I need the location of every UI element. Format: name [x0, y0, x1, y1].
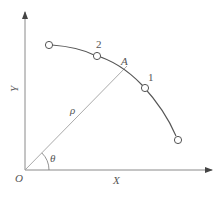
- marker-end: [174, 136, 181, 143]
- x-axis-label: X: [112, 174, 121, 186]
- angle-arc: [42, 153, 49, 170]
- point-a-label: A: [120, 55, 128, 67]
- marker-2-label: 2: [96, 38, 102, 50]
- marker-1: [141, 84, 148, 91]
- marker-start: [45, 41, 52, 48]
- rho-label: ρ: [69, 104, 75, 116]
- trajectory-curve: [52, 45, 176, 136]
- theta-label: θ: [50, 152, 56, 164]
- radius-ray: [25, 66, 127, 170]
- y-axis-label: Y: [8, 84, 20, 92]
- marker-1-label: 1: [148, 71, 154, 83]
- origin-label: O: [15, 172, 23, 184]
- marker-2: [93, 52, 100, 59]
- polar-diagram: 2 1 A Y X O ρ θ: [0, 0, 220, 197]
